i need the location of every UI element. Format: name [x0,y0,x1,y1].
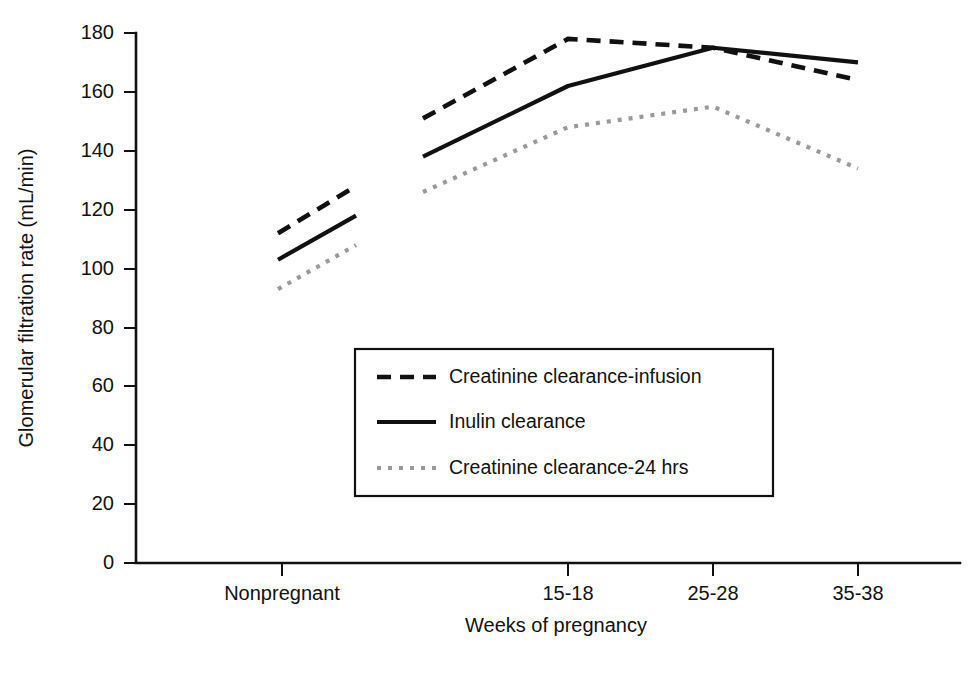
series-creatinine-clearance-24-hrs [278,107,858,290]
y-tick-label-0: 0 [103,551,114,573]
y-tick-label-160: 160 [81,80,114,102]
legend-label-creatinine-infusion: Creatinine clearance-infusion [449,365,702,387]
x-tick-label-nonpregnant: Nonpregnant [224,582,340,604]
series-layer [278,39,858,289]
y-tick-label-80: 80 [92,316,114,338]
y-tick-label-180: 180 [81,21,114,43]
y-tick-label-60: 60 [92,374,114,396]
x-axis-title: Weeks of pregnancy [465,614,647,636]
series-creatinine-clearance-infusion [278,39,858,233]
y-tick-label-120: 120 [81,198,114,220]
y-tick-label-100: 100 [81,257,114,279]
x-tick-label-15-18: 15-18 [542,582,593,604]
legend: Creatinine clearance-infusion Inulin cle… [355,349,773,496]
y-tick-label-20: 20 [92,492,114,514]
y-tick-label-140: 140 [81,139,114,161]
x-axis-ticks [282,563,858,576]
legend-label-creatinine-24hrs: Creatinine clearance-24 hrs [449,456,689,478]
y-axis-ticks [124,33,136,563]
y-axis-title: Glomerular filtration rate (mL/min) [15,149,37,448]
x-tick-label-25-28: 25-28 [687,582,738,604]
y-axis-tick-labels: 180 160 140 120 100 80 60 40 20 0 [81,21,114,573]
gfr-line-chart: Glomerular filtration rate (mL/min) 180 … [0,0,973,685]
x-axis-tick-labels: Nonpregnant 15-18 25-28 35-38 [224,582,883,604]
series-inulin-clearance [278,48,858,260]
legend-label-inulin: Inulin clearance [449,410,586,432]
chart-container: Glomerular filtration rate (mL/min) 180 … [0,0,973,685]
y-tick-label-40: 40 [92,433,114,455]
x-tick-label-35-38: 35-38 [832,582,883,604]
